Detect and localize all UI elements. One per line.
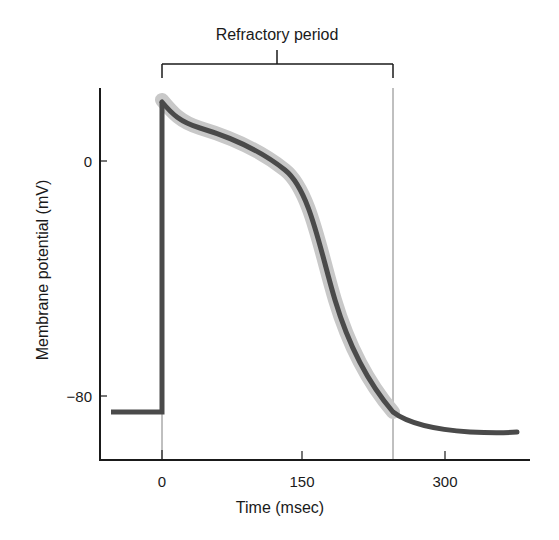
y-axis-label: Membrane potential (mV) [34,180,51,361]
x-tick-label-300: 300 [432,473,457,490]
x-tick-label-150: 150 [289,473,314,490]
x-tick-label-0: 0 [158,473,166,490]
y-tick-label-0: 0 [84,153,92,170]
refractory-period-label: Refractory period [216,26,339,43]
y-tick-label-minus80: −80 [67,388,92,405]
resting-and-upstroke-trace [111,102,162,412]
x-axis-label: Time (msec) [236,499,324,516]
action-potential-trace [162,102,517,433]
trace-halo [162,100,393,412]
action-potential-chart: Refractory period 0 −80 0 150 300 Time (… [0,0,559,540]
refractory-bracket [162,50,393,78]
